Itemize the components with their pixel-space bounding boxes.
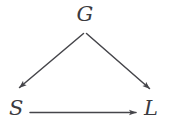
edge-g-to-s: [20, 34, 84, 88]
node-label-g: G: [0, 4, 170, 25]
diagram-canvas: G S L: [0, 0, 170, 126]
node-label-l: L: [144, 98, 158, 119]
edge-g-to-l: [87, 34, 150, 89]
node-label-s: S: [9, 98, 23, 119]
